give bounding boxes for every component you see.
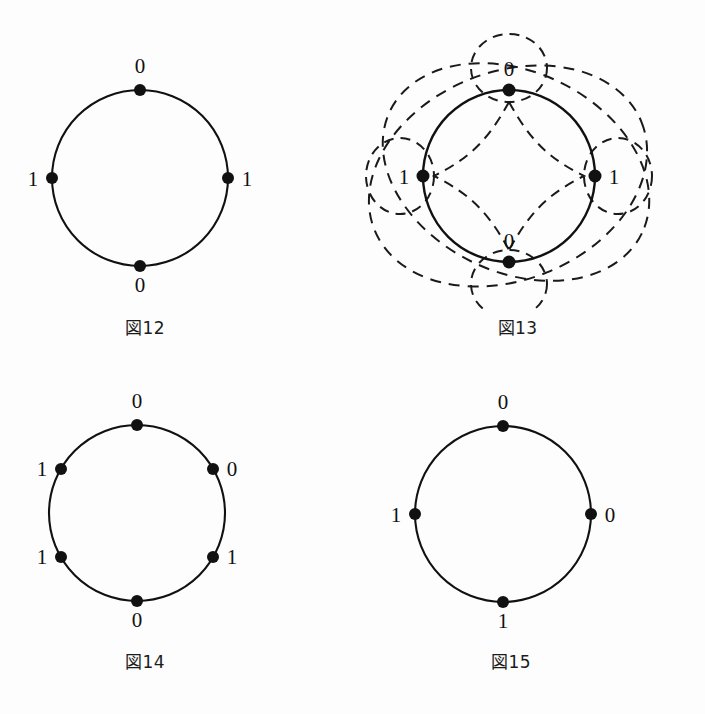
- figure-13: 0 1 1 0 図13: [360, 0, 705, 350]
- fig14-label-bottom: 0: [132, 608, 143, 632]
- fig13-node-left: [417, 170, 430, 183]
- fig14-label-lower-right: 1: [227, 545, 238, 569]
- fig14-label-upper-right: 0: [227, 457, 238, 481]
- figure-15: 0 1 0 1 図15: [366, 338, 656, 688]
- fig13-node-top: [503, 84, 516, 97]
- fig15-label-right: 0: [605, 503, 616, 527]
- fig12-node-top: [134, 84, 146, 96]
- fig15-label-left: 1: [391, 503, 402, 527]
- fig13-dashed-strand-left: [434, 102, 509, 250]
- fig13-label-bottom: 0: [504, 229, 515, 253]
- figure-14-caption: 図14: [0, 648, 290, 673]
- fig15-main-circle: [415, 426, 591, 602]
- fig14-label-upper-left: 1: [37, 457, 48, 481]
- fig14-node-lower-right: [207, 551, 219, 563]
- fig13-label-top: 0: [504, 57, 515, 81]
- fig15-label-top: 0: [498, 390, 509, 414]
- fig13-node-right: [589, 170, 602, 183]
- fig13-dashed-strand-right: [509, 102, 584, 250]
- fig15-label-bottom: 1: [498, 609, 509, 633]
- fig12-node-bottom: [134, 260, 146, 272]
- fig14-label-lower-left: 1: [37, 545, 48, 569]
- fig14-node-top: [131, 419, 143, 431]
- fig12-label-top: 0: [135, 54, 146, 78]
- fig12-label-right: 1: [242, 167, 253, 191]
- figure-13-caption: 図13: [345, 314, 690, 339]
- fig14-node-upper-left: [55, 463, 67, 475]
- figure-15-caption: 図15: [366, 648, 656, 673]
- fig14-node-bottom: [131, 595, 143, 607]
- fig12-label-bottom: 0: [135, 273, 146, 297]
- fig14-label-top: 0: [132, 389, 143, 413]
- figure-14-drawing: 0 1 0 1 1 0: [0, 338, 290, 638]
- figure-13-drawing: 0 1 1 0: [360, 0, 705, 310]
- figure-12-drawing: 0 1 1 0: [0, 0, 290, 310]
- fig15-node-top: [497, 420, 509, 432]
- fig12-node-left: [46, 172, 58, 184]
- fig13-node-bottom: [503, 256, 516, 269]
- fig14-node-lower-left: [55, 551, 67, 563]
- figure-12: 0 1 1 0 図12: [0, 0, 290, 350]
- figure-15-drawing: 0 1 0 1: [366, 338, 656, 638]
- fig13-label-right: 1: [609, 165, 620, 189]
- fig12-main-circle: [52, 90, 228, 266]
- fig15-node-left: [409, 508, 421, 520]
- fig13-label-left: 1: [399, 165, 410, 189]
- fig12-label-left: 1: [28, 167, 39, 191]
- fig12-node-right: [222, 172, 234, 184]
- figure-14: 0 1 0 1 1 0 図14: [0, 338, 290, 688]
- fig15-node-right: [585, 508, 597, 520]
- fig14-node-upper-right: [207, 463, 219, 475]
- fig14-main-circle: [49, 425, 225, 601]
- fig15-node-bottom: [497, 596, 509, 608]
- figure-sheet: 0 1 1 0 図12: [0, 0, 705, 714]
- figure-12-caption: 図12: [0, 314, 290, 339]
